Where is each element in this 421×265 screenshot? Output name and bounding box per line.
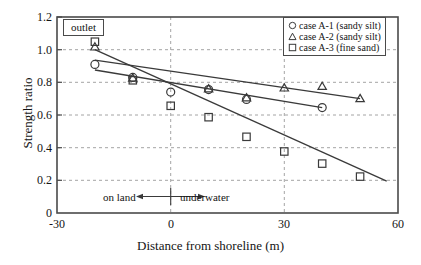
legend-label: case A-3 (fine sand) xyxy=(299,42,379,53)
trend-lines xyxy=(95,50,387,181)
outlet-annotation: outlet xyxy=(63,19,104,36)
legend-label: case A-2 (sandy silt) xyxy=(299,31,381,42)
triangle-marker-icon xyxy=(287,31,298,42)
trendline-case-a3 xyxy=(95,50,387,181)
trendline-case-a2 xyxy=(95,60,360,98)
legend: case A-1 (sandy silt) case A-2 (sandy si… xyxy=(283,17,386,56)
on-land-annotation: on land xyxy=(103,191,136,203)
legend-item-case-a3: case A-3 (fine sand) xyxy=(287,42,381,53)
x-axis-title: Distance from shoreline (m) xyxy=(0,238,421,254)
legend-item-case-a2: case A-2 (sandy silt) xyxy=(287,31,381,42)
xtick-label: 0 xyxy=(151,217,191,232)
circle-marker-icon xyxy=(287,20,298,31)
xtick-label: 60 xyxy=(378,217,418,232)
y-axis-title: Strength ratio xyxy=(20,33,36,193)
square-marker-icon xyxy=(287,42,298,53)
chart-figure: 1.2 1.0 0.8 0.6 0.4 0.2 0 -30 0 30 60 Di… xyxy=(0,0,421,265)
ytick-label: 1.2 xyxy=(18,10,52,25)
legend-label: case A-1 (sandy silt) xyxy=(299,20,381,31)
series-markers-case-a1 xyxy=(91,60,326,111)
xtick-label: 30 xyxy=(264,217,304,232)
underwater-annotation: underwater xyxy=(180,191,229,203)
legend-item-case-a1: case A-1 (sandy silt) xyxy=(287,20,381,31)
xtick-label: -30 xyxy=(37,217,77,232)
